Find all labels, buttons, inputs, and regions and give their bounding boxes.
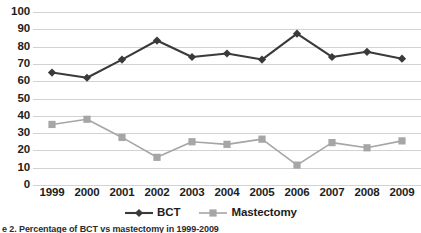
y-axis-tick-label: 70: [2, 58, 30, 70]
data-point-marker: [48, 121, 55, 128]
x-axis-tick-label: 2001: [109, 187, 134, 199]
data-point-marker: [328, 139, 335, 146]
x-axis-tick-label: 2008: [354, 187, 379, 199]
x-axis-tick-label: 1999: [39, 187, 64, 199]
data-point-marker: [363, 144, 370, 151]
chart-plot-area: 0102030405060708090100 19992000200120022…: [0, 0, 421, 212]
y-axis-tick-label: 80: [2, 41, 30, 53]
data-point-marker: [153, 154, 160, 161]
data-point-marker: [223, 141, 230, 148]
x-axis-tick-label: 2002: [144, 187, 169, 199]
data-point-marker: [398, 137, 405, 144]
y-axis-tick-label: 40: [2, 110, 30, 122]
y-axis-labels: 0102030405060708090100: [0, 0, 30, 212]
x-axis-tick-label: 2005: [249, 187, 274, 199]
x-axis-tick-label: 2009: [389, 187, 414, 199]
x-axis-tick-label: 2006: [284, 187, 309, 199]
y-axis-tick-label: 30: [2, 127, 30, 139]
y-axis-tick-label: 60: [2, 75, 30, 87]
legend-entry-mastectomy[interactable]: Mastectomy: [198, 207, 296, 219]
y-axis-tick-label: 50: [2, 93, 30, 105]
legend-diamond-icon: [124, 207, 154, 219]
legend-label: BCT: [157, 207, 180, 219]
x-axis-tick-label: 2003: [179, 187, 204, 199]
data-point-marker: [83, 74, 91, 82]
data-point-marker: [363, 48, 371, 56]
figure-container: 0102030405060708090100 19992000200120022…: [0, 0, 421, 233]
x-axis-labels: 1999200020012002200320042005200620072008…: [33, 187, 421, 205]
y-axis-tick-label: 0: [2, 179, 30, 191]
chart-legend: BCTMastectomy: [0, 204, 421, 222]
x-axis-tick-label: 2000: [74, 187, 99, 199]
y-axis-tick-label: 100: [2, 6, 30, 18]
data-point-marker: [48, 68, 56, 76]
data-point-marker: [188, 53, 196, 61]
y-axis-tick-label: 20: [2, 144, 30, 156]
data-point-marker: [153, 36, 161, 44]
data-point-marker: [118, 55, 126, 63]
data-point-marker: [398, 55, 406, 63]
legend-square-icon: [198, 207, 228, 219]
data-point-marker: [188, 138, 195, 145]
y-axis-tick-label: 90: [2, 23, 30, 35]
data-point-marker: [293, 162, 300, 169]
x-axis-tick-label: 2004: [214, 187, 239, 199]
legend-label: Mastectomy: [231, 207, 296, 219]
y-axis-tick-label: 10: [2, 162, 30, 174]
legend-entry-bct[interactable]: BCT: [124, 207, 180, 219]
x-axis-tick-label: 2007: [319, 187, 344, 199]
data-point-marker: [258, 136, 265, 143]
data-point-marker: [83, 116, 90, 123]
figure-caption: e 2. Percentage of BCT vs mastectomy in …: [2, 224, 421, 233]
data-point-marker: [118, 134, 125, 141]
series-mastectomy: [48, 116, 405, 169]
data-point-marker: [223, 49, 231, 57]
series-plot: [33, 0, 421, 212]
series-bct: [48, 30, 406, 82]
